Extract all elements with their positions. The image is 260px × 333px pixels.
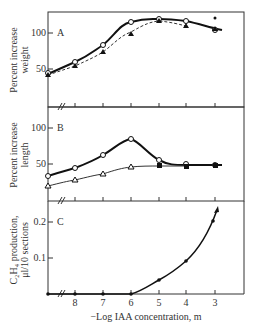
xtick-7: 7	[101, 297, 106, 308]
x-axis-label: −Log IAA concentration, m	[90, 311, 201, 322]
svg-text:μl/10 sections: μl/10 sections	[19, 222, 30, 278]
panel-label-a: A	[57, 27, 65, 38]
ytick-a-50: 50	[36, 63, 46, 74]
svg-text:Percent increase: Percent increase	[8, 122, 19, 188]
ytick-c-02: 0.2	[34, 216, 47, 227]
xtick-6: 6	[129, 297, 134, 308]
arrow-up-icon	[214, 206, 219, 213]
svg-text:length: length	[19, 143, 30, 168]
xtick-4: 4	[184, 297, 189, 308]
ytick-b-100: 100	[31, 122, 46, 133]
panel-label-b: B	[57, 122, 64, 133]
markers-b-circles	[46, 137, 218, 179]
xtick-5: 5	[157, 297, 162, 308]
y-ticks	[48, 33, 53, 258]
svg-text:weight: weight	[19, 46, 30, 73]
chart-figure: 100 50 100 50 0.2 0.1 A B C Percent incr…	[0, 0, 260, 333]
svg-text:C₂H₄ production,: C₂H₄ production,	[8, 215, 19, 284]
ytick-a-100: 100	[31, 27, 46, 38]
ytick-c-01: 0.1	[34, 252, 47, 263]
series-a-triangles	[48, 21, 186, 75]
xtick-3: 3	[213, 297, 218, 308]
x-ticks	[75, 103, 215, 294]
ylabel-c: C₂H₄ production, μl/10 sections	[8, 215, 30, 284]
markers-a-circles	[46, 17, 218, 76]
panel-label-c: C	[57, 216, 64, 227]
markers-b-triangles	[45, 164, 134, 188]
markers-a-triangles	[45, 17, 218, 78]
ylabel-b: Percent increase length	[8, 122, 30, 188]
series-c-ethylene	[48, 210, 217, 294]
ylabel-a: Percent increase weight	[8, 27, 30, 93]
svg-text:Percent increase: Percent increase	[8, 27, 19, 93]
ytick-b-50: 50	[36, 158, 46, 169]
panel-frames	[48, 12, 244, 294]
xtick-8: 8	[73, 297, 78, 308]
